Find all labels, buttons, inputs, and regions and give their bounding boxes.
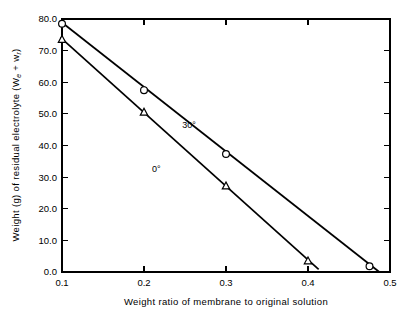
- series-annotation: 0°: [152, 164, 161, 174]
- x-tick-label: 0.5: [383, 277, 396, 288]
- y-tick-label: 50.0: [39, 108, 58, 119]
- chart-canvas: 0.10.20.30.40.5 0.010.020.030.040.050.06…: [0, 0, 410, 315]
- chart-figure: 0.10.20.30.40.5 0.010.020.030.040.050.06…: [0, 0, 410, 315]
- x-axis-title: Weight ratio of membrane to original sol…: [124, 296, 328, 307]
- x-tick-label: 0.4: [301, 277, 314, 288]
- y-tick-label: 60.0: [39, 77, 58, 88]
- y-axis-tick-labels: 0.010.020.030.040.050.060.070.080.0: [39, 13, 58, 277]
- x-tick-label: 0.3: [219, 277, 232, 288]
- y-tick-label: 20.0: [39, 203, 58, 214]
- y-tick-label: 70.0: [39, 45, 58, 56]
- y-tick-label: 0.0: [44, 266, 57, 277]
- series-annotation: 30°: [182, 120, 196, 130]
- y-tick-label: 80.0: [39, 13, 58, 24]
- y-tick-label: 30.0: [39, 172, 58, 183]
- data-point-marker: [366, 263, 373, 270]
- data-point-marker: [59, 20, 66, 27]
- x-tick-label: 0.2: [137, 277, 150, 288]
- y-tick-label: 40.0: [39, 140, 58, 151]
- data-point-marker: [223, 151, 230, 158]
- x-tick-label: 0.1: [55, 277, 68, 288]
- data-point-marker: [141, 87, 148, 94]
- y-tick-label: 10.0: [39, 235, 58, 246]
